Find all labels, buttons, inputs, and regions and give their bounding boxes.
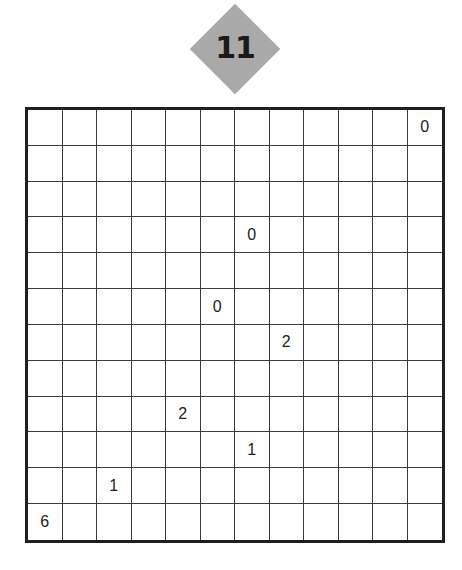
clue-cell[interactable]: 0 — [235, 217, 270, 253]
grid-cell[interactable] — [97, 432, 132, 468]
clue-cell[interactable]: 0 — [408, 110, 443, 146]
grid-cell[interactable] — [28, 325, 63, 361]
grid-cell[interactable] — [373, 504, 408, 540]
grid-cell[interactable] — [132, 432, 167, 468]
grid-cell[interactable] — [132, 182, 167, 218]
grid-cell[interactable] — [166, 504, 201, 540]
clue-cell[interactable]: 0 — [201, 289, 236, 325]
grid-cell[interactable] — [339, 468, 374, 504]
grid-cell[interactable] — [270, 397, 305, 433]
grid-cell[interactable] — [270, 361, 305, 397]
grid-cell[interactable] — [373, 110, 408, 146]
grid-cell[interactable] — [132, 217, 167, 253]
grid-cell[interactable] — [235, 361, 270, 397]
grid-cell[interactable] — [270, 110, 305, 146]
grid-cell[interactable] — [166, 289, 201, 325]
grid-cell[interactable] — [28, 253, 63, 289]
grid-cell[interactable] — [201, 325, 236, 361]
grid-cell[interactable] — [28, 397, 63, 433]
grid-cell[interactable] — [63, 361, 98, 397]
grid-cell[interactable] — [304, 468, 339, 504]
grid-cell[interactable] — [97, 110, 132, 146]
grid-cell[interactable] — [408, 289, 443, 325]
grid-cell[interactable] — [373, 432, 408, 468]
grid-cell[interactable] — [339, 361, 374, 397]
grid-cell[interactable] — [28, 361, 63, 397]
grid-cell[interactable] — [63, 504, 98, 540]
grid-cell[interactable] — [373, 146, 408, 182]
grid-cell[interactable] — [373, 253, 408, 289]
grid-cell[interactable] — [132, 253, 167, 289]
grid-cell[interactable] — [132, 289, 167, 325]
grid-cell[interactable] — [132, 361, 167, 397]
clue-cell[interactable]: 6 — [28, 504, 63, 540]
grid-cell[interactable] — [63, 325, 98, 361]
grid-cell[interactable] — [63, 253, 98, 289]
grid-cell[interactable] — [304, 397, 339, 433]
grid-cell[interactable] — [28, 110, 63, 146]
grid-cell[interactable] — [373, 397, 408, 433]
grid-cell[interactable] — [201, 217, 236, 253]
grid-cell[interactable] — [63, 217, 98, 253]
grid-cell[interactable] — [304, 325, 339, 361]
grid-cell[interactable] — [201, 432, 236, 468]
grid-cell[interactable] — [270, 432, 305, 468]
grid-cell[interactable] — [270, 217, 305, 253]
grid-cell[interactable] — [97, 504, 132, 540]
grid-cell[interactable] — [166, 110, 201, 146]
grid-cell[interactable] — [339, 289, 374, 325]
grid-cell[interactable] — [235, 504, 270, 540]
grid-cell[interactable] — [28, 432, 63, 468]
grid-cell[interactable] — [235, 146, 270, 182]
grid-cell[interactable] — [304, 289, 339, 325]
grid-cell[interactable] — [201, 253, 236, 289]
grid-cell[interactable] — [408, 182, 443, 218]
grid-cell[interactable] — [339, 146, 374, 182]
grid-cell[interactable] — [63, 182, 98, 218]
clue-cell[interactable]: 2 — [166, 397, 201, 433]
grid-cell[interactable] — [201, 110, 236, 146]
grid-cell[interactable] — [97, 325, 132, 361]
grid-cell[interactable] — [28, 217, 63, 253]
grid-cell[interactable] — [270, 289, 305, 325]
grid-cell[interactable] — [166, 361, 201, 397]
grid-cell[interactable] — [304, 110, 339, 146]
grid-cell[interactable] — [63, 289, 98, 325]
grid-cell[interactable] — [304, 253, 339, 289]
grid-cell[interactable] — [28, 146, 63, 182]
grid-cell[interactable] — [63, 432, 98, 468]
grid-cell[interactable] — [97, 217, 132, 253]
grid-cell[interactable] — [235, 110, 270, 146]
grid-cell[interactable] — [97, 361, 132, 397]
grid-cell[interactable] — [97, 289, 132, 325]
grid-cell[interactable] — [201, 182, 236, 218]
grid-cell[interactable] — [166, 325, 201, 361]
clue-cell[interactable]: 1 — [97, 468, 132, 504]
grid-cell[interactable] — [304, 361, 339, 397]
grid-cell[interactable] — [97, 182, 132, 218]
grid-cell[interactable] — [166, 253, 201, 289]
grid-cell[interactable] — [339, 182, 374, 218]
grid-cell[interactable] — [166, 217, 201, 253]
grid-cell[interactable] — [373, 289, 408, 325]
grid-cell[interactable] — [132, 397, 167, 433]
grid-cell[interactable] — [408, 432, 443, 468]
grid-cell[interactable] — [339, 432, 374, 468]
grid-cell[interactable] — [201, 361, 236, 397]
grid-cell[interactable] — [235, 253, 270, 289]
grid-cell[interactable] — [339, 110, 374, 146]
grid-cell[interactable] — [132, 110, 167, 146]
grid-cell[interactable] — [408, 146, 443, 182]
grid-cell[interactable] — [408, 504, 443, 540]
grid-cell[interactable] — [166, 182, 201, 218]
grid-cell[interactable] — [339, 504, 374, 540]
grid-cell[interactable] — [235, 182, 270, 218]
grid-cell[interactable] — [166, 432, 201, 468]
clue-cell[interactable]: 1 — [235, 432, 270, 468]
grid-cell[interactable] — [304, 146, 339, 182]
grid-cell[interactable] — [166, 468, 201, 504]
grid-cell[interactable] — [270, 468, 305, 504]
grid-cell[interactable] — [408, 468, 443, 504]
grid-cell[interactable] — [304, 432, 339, 468]
grid-cell[interactable] — [304, 217, 339, 253]
